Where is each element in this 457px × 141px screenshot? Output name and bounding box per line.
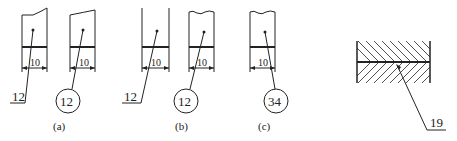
part-label: 12 — [124, 89, 137, 104]
part-b2: 10 12 — [174, 11, 214, 113]
dimension-text: 10 — [151, 57, 161, 68]
part-b1: 10 12 — [122, 8, 169, 104]
part-a2: 10 12 — [56, 10, 95, 113]
part-label: 12 — [12, 89, 25, 104]
dimension-text: 10 — [197, 57, 207, 68]
part-c1: 10 34 — [250, 11, 288, 113]
assembly-label: 19 — [430, 115, 443, 130]
dimension-text: 10 — [258, 57, 268, 68]
assembly-section: 19 — [350, 41, 446, 130]
caption-a: (a) — [53, 120, 66, 133]
leader-line-diagram: 10 12 10 12 (a) 10 12 — [0, 0, 457, 141]
part-label: 34 — [268, 94, 282, 109]
dimension-text: 10 — [30, 57, 40, 68]
caption-c: (c) — [258, 120, 271, 133]
dimension-text: 10 — [79, 57, 89, 68]
part-label: 12 — [60, 94, 73, 109]
part-label: 12 — [178, 94, 191, 109]
part-a1: 10 12 — [10, 8, 47, 104]
caption-b: (b) — [175, 120, 188, 133]
